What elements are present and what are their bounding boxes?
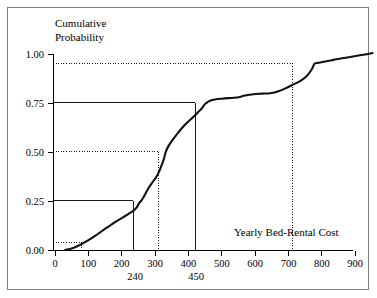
x-tick-label: 900: [347, 258, 363, 269]
x-tick-label: 600: [247, 258, 263, 269]
y-tick-label: 1.00: [26, 49, 44, 60]
x-tick-label: 300: [147, 258, 163, 269]
figure-container: 1.00 0.75 0.50 0.25 0.00 0 100 200 300 4…: [0, 0, 377, 298]
y-tick-label: 0.75: [26, 98, 44, 109]
y-tick-labels: 1.00 0.75 0.50 0.25 0.00: [26, 49, 44, 256]
y-axis-title-line1: Cumulative: [55, 17, 106, 29]
x-axis-title: Yearly Bed-Rental Cost: [234, 226, 339, 238]
x-tick-label: 400: [181, 258, 197, 269]
y-tick-marks: [48, 54, 54, 250]
y-axis-title: Cumulative Probability: [55, 17, 106, 43]
y-axis-title-line2: Probability: [55, 31, 104, 43]
x-axis-annotations: 240 450: [127, 271, 204, 282]
annotation-240: 240: [127, 271, 143, 282]
x-tick-label: 100: [81, 258, 97, 269]
x-tick-label: 500: [214, 258, 230, 269]
cdf-chart: 1.00 0.75 0.50 0.25 0.00 0 100 200 300 4…: [0, 0, 377, 298]
reference-line-095: [53, 63, 293, 250]
x-tick-label: 700: [281, 258, 297, 269]
x-tick-label: 0: [52, 258, 57, 269]
y-tick-label: 0.50: [26, 147, 44, 158]
x-tick-label: 800: [314, 258, 330, 269]
x-tick-marks: [55, 251, 355, 257]
reference-line-075: [53, 103, 195, 251]
x-tick-label: 200: [114, 258, 130, 269]
reference-line-025: [53, 201, 133, 250]
x-tick-labels: 0 100 200 300 400 500 600 700 800 900: [52, 258, 363, 269]
y-tick-label: 0.00: [26, 245, 44, 256]
y-tick-label: 0.25: [26, 196, 44, 207]
annotation-450: 450: [188, 271, 204, 282]
